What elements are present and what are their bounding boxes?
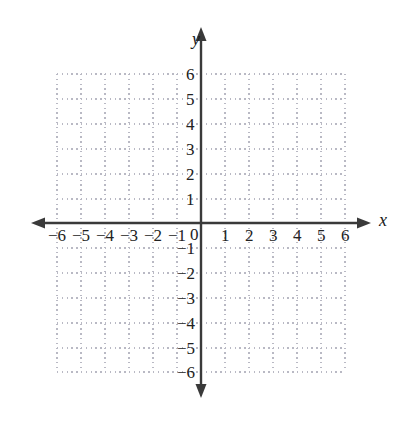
y-tick-label-neg1: −1 — [177, 240, 195, 257]
y-tick-label-pos6: 6 — [186, 66, 195, 83]
plot-area: y x 0 −6 −5 −4 −3 −2 −1 1 2 3 4 5 6 6 5 … — [0, 0, 402, 421]
y-tick-label-neg6: −6 — [177, 364, 195, 381]
y-tick-label-pos5: 5 — [186, 91, 195, 108]
x-tick-label-neg3: −3 — [120, 227, 138, 244]
y-tick-label-pos2: 2 — [186, 166, 195, 183]
x-tick-label-pos5: 5 — [317, 227, 326, 244]
x-tick-label-neg6: −6 — [48, 227, 66, 244]
coordinate-plane-figure: y x 0 −6 −5 −4 −3 −2 −1 1 2 3 4 5 6 6 5 … — [0, 0, 402, 421]
x-axis-arrow-left — [31, 218, 45, 229]
x-tick-label-neg2: −2 — [144, 227, 162, 244]
x-tick-label-neg4: −4 — [96, 227, 114, 244]
x-tick-label-pos3: 3 — [269, 227, 278, 244]
x-tick-label-pos1: 1 — [221, 227, 230, 244]
x-tick-label-neg5: −5 — [72, 227, 90, 244]
x-tick-label-pos4: 4 — [293, 227, 302, 244]
y-tick-label-pos1: 1 — [186, 191, 195, 208]
y-tick-label-neg5: −5 — [177, 340, 195, 357]
x-axis-arrow-right — [357, 218, 371, 229]
y-tick-label-pos4: 4 — [186, 116, 195, 133]
x-axis-label: x — [379, 211, 387, 229]
y-axis-label: y — [192, 30, 200, 48]
y-tick-label-neg2: −2 — [177, 265, 195, 282]
y-tick-label-neg3: −3 — [177, 290, 195, 307]
axis-layer — [0, 0, 402, 421]
x-tick-label-pos2: 2 — [245, 227, 254, 244]
y-tick-label-neg4: −4 — [177, 315, 195, 332]
y-axis-arrow-down — [196, 384, 207, 398]
x-tick-label-pos6: 6 — [341, 227, 350, 244]
y-tick-label-pos3: 3 — [186, 141, 195, 158]
